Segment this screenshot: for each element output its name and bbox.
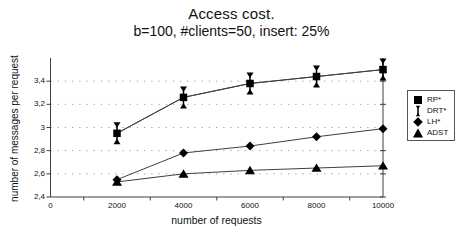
marker-square: [379, 66, 387, 74]
y-tick-label: 3,2: [15, 99, 45, 109]
marker-ibeam-cap: [247, 89, 254, 95]
chart-figure: Access cost. b=100, #clients=50, insert:…: [0, 0, 463, 243]
marker-square: [313, 73, 321, 81]
marker-ibeam-cap: [313, 82, 320, 88]
marker-ibeam-cap: [180, 86, 187, 92]
y-tick-label: 3: [15, 123, 45, 133]
marker-diamond: [179, 148, 188, 157]
legend-label: RP*: [427, 95, 441, 104]
marker-ibeam-cap: [380, 75, 387, 81]
x-tick-label: 6000: [230, 201, 270, 211]
x-tick-label: 0: [31, 201, 71, 211]
marker-ibeam-cap: [114, 122, 121, 128]
marker-ibeam-cap: [114, 139, 121, 145]
marker-ibeam-cap: [380, 59, 387, 65]
marker-diamond: [379, 124, 388, 133]
y-tick-label: 3,4: [15, 76, 45, 86]
x-tick-label: 2000: [97, 201, 137, 211]
legend-item-drt: DRT*: [412, 105, 452, 116]
legend-item-adst: ADST: [412, 127, 452, 138]
x-tick-label: 10000: [363, 201, 403, 211]
legend: RP*DRT*LH*ADST: [407, 90, 455, 141]
marker-ibeam-cap: [313, 66, 320, 72]
marker-ibeam-cap: [247, 72, 254, 78]
x-tick-label: 8000: [297, 201, 337, 211]
x-tick-label: 4000: [164, 201, 204, 211]
legend-item-lh: LH*: [412, 116, 452, 127]
y-tick-label: 2,6: [15, 169, 45, 179]
legend-label: LH*: [427, 117, 440, 126]
y-tick-label: 2,8: [15, 146, 45, 156]
legend-item-rp: RP*: [412, 94, 452, 105]
legend-label: ADST: [427, 128, 448, 137]
legend-marker-triangle-icon: [412, 127, 424, 139]
marker-ibeam-cap: [180, 103, 187, 109]
marker-diamond: [312, 132, 321, 141]
marker-diamond: [246, 142, 255, 151]
marker-square: [113, 130, 121, 138]
legend-label: DRT*: [427, 106, 446, 115]
marker-square: [180, 94, 188, 102]
marker-square: [246, 80, 254, 88]
